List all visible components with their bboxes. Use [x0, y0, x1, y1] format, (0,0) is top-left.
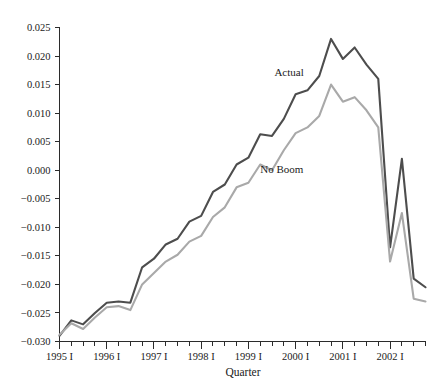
- series-label-actual: Actual: [274, 66, 303, 78]
- series-line-no-boom: [60, 85, 426, 335]
- y-axis-tick-label: 0.005: [27, 136, 51, 147]
- x-axis-tick-label: 1996 I: [93, 351, 121, 362]
- y-axis-tick-label: −0.015: [21, 250, 51, 261]
- x-axis-tick-label: 1999 I: [235, 351, 263, 362]
- x-axis-tick-label: 1997 I: [140, 351, 168, 362]
- x-axis: 1995 I1996 I1997 I1998 I1999 I2000 I2001…: [46, 342, 426, 362]
- y-axis-tick-label: 0.010: [27, 108, 51, 119]
- data-series-group: [60, 39, 426, 336]
- series-label-no-boom: No Boom: [260, 163, 304, 175]
- x-axis-tick-label: 2000 I: [282, 351, 310, 362]
- y-axis-tick-label: 0.000: [27, 165, 51, 176]
- y-axis-tick-label: −0.030: [21, 336, 51, 347]
- x-axis-tick-label: 2002 I: [377, 351, 405, 362]
- y-axis-tick-label: −0.005: [21, 193, 51, 204]
- x-axis-tick-label: 1995 I: [46, 351, 74, 362]
- y-axis-tick-label: 0.015: [27, 79, 51, 90]
- line-chart: 0.0250.0200.0150.0100.0050.000−0.005−0.0…: [0, 0, 438, 389]
- x-axis-title: Quarter: [225, 366, 260, 378]
- y-axis-tick-label: 0.025: [27, 22, 51, 33]
- y-axis-tick-label: −0.025: [21, 308, 51, 319]
- y-axis: 0.0250.0200.0150.0100.0050.000−0.005−0.0…: [21, 22, 60, 347]
- x-axis-tick-label: 2001 I: [329, 351, 357, 362]
- series-line-actual: [60, 39, 426, 336]
- y-axis-tick-label: −0.010: [21, 222, 51, 233]
- chart-canvas: 0.0250.0200.0150.0100.0050.000−0.005−0.0…: [0, 0, 438, 389]
- y-axis-tick-label: 0.020: [27, 51, 51, 62]
- y-axis-tick-label: −0.020: [21, 279, 51, 290]
- x-axis-tick-label: 1998 I: [188, 351, 216, 362]
